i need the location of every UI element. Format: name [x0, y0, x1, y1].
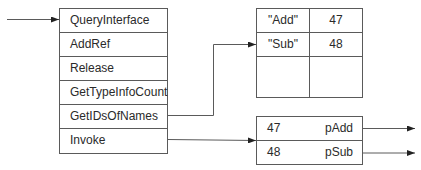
function-pointer: pSub — [307, 141, 362, 165]
method-name — [257, 57, 310, 97]
name-row: "Add" 47 — [257, 9, 362, 33]
vtable-entry-invoke: Invoke — [60, 129, 167, 153]
dispid: 47 — [257, 117, 307, 140]
dispid — [310, 57, 362, 97]
vtable-entry-addref: AddRef — [60, 33, 167, 57]
function-pointer: pAdd — [307, 117, 362, 140]
dispid: 48 — [310, 33, 362, 56]
method-name: "Add" — [257, 9, 310, 32]
method-name: "Sub" — [257, 33, 310, 56]
dispid-to-function-table: 47 pAdd 48 pSub — [256, 116, 363, 165]
vtable-entry-gettypeinfocount: GetTypeInfoCount — [60, 81, 167, 105]
getidsofnames-arrow — [168, 45, 256, 116]
dispid: 47 — [310, 9, 362, 32]
vtable-entry-getidsofnames: GetIDsOfNames — [60, 105, 167, 129]
dispatch-row: 48 pSub — [257, 141, 362, 165]
vtable-entry-release: Release — [60, 57, 167, 81]
idispatch-vtable: QueryInterface AddRef Release GetTypeInf… — [59, 8, 168, 154]
name-row: "Sub" 48 — [257, 33, 362, 57]
name-row-empty — [257, 57, 362, 97]
vtable-entry-queryinterface: QueryInterface — [60, 9, 167, 33]
dispid: 48 — [257, 141, 307, 165]
name-to-dispid-table: "Add" 47 "Sub" 48 — [256, 8, 363, 98]
dispatch-row: 47 pAdd — [257, 117, 362, 141]
invoke-arrow — [168, 140, 256, 141]
